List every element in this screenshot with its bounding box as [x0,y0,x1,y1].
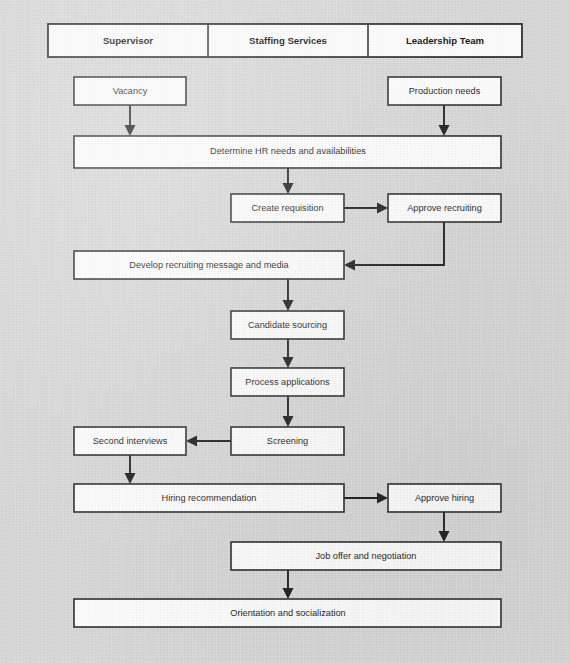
node-determine-hr-needs[interactable]: Determine HR needs and availabilities [74,136,501,168]
edge-approve-recruiting-to-develop-recruiting [344,222,444,271]
process-flowchart: Supervisor Staffing Services Leadership … [0,0,570,663]
swimlane-header: Supervisor Staffing Services Leadership … [48,24,522,57]
node-job-offer-and-negotiation[interactable]: Job offer and negotiation [231,542,501,570]
node-approve-hiring[interactable]: Approve hiring [388,484,501,512]
node-label-develop-recruiting-message: Develop recruiting message and media [129,260,289,270]
node-label-approve-recruiting: Approve recruiting [407,203,482,213]
node-production-needs[interactable]: Production needs [388,77,501,105]
edge-second-interviews-to-hiring-recommendation [125,455,136,484]
node-approve-recruiting[interactable]: Approve recruiting [388,194,501,222]
node-label-process-applications: Process applications [245,377,330,387]
swimlane-header-supervisor: Supervisor [103,35,153,46]
edge-determine-hr-to-create-requisition [283,168,294,194]
node-label-job-offer-and-negotiation: Job offer and negotiation [316,551,417,561]
node-develop-recruiting-message[interactable]: Develop recruiting message and media [74,251,344,279]
edge-hiring-recommendation-to-approve-hiring [344,493,388,504]
node-vacancy[interactable]: Vacancy [74,77,186,105]
edge-create-requisition-to-approve-recruiting [344,203,388,214]
node-label-orientation-and-socialization: Orientation and socialization [230,608,345,618]
edge-production-needs-to-determine-hr [439,105,450,136]
node-label-production-needs: Production needs [409,86,481,96]
node-label-create-requisition: Create requisition [251,203,323,213]
edge-vacancy-to-determine-hr [125,105,136,136]
node-candidate-sourcing[interactable]: Candidate sourcing [231,311,344,339]
edge-screening-to-second-interviews [186,436,231,447]
node-hiring-recommendation[interactable]: Hiring recommendation [74,484,344,512]
node-create-requisition[interactable]: Create requisition [231,194,344,222]
swimlane-header-leadership-team: Leadership Team [406,35,484,46]
node-label-vacancy: Vacancy [113,86,148,96]
node-process-applications[interactable]: Process applications [231,368,344,396]
node-orientation-and-socialization[interactable]: Orientation and socialization [74,599,501,627]
connector-layer [125,105,450,599]
node-second-interviews[interactable]: Second interviews [74,427,186,455]
node-label-hiring-recommendation: Hiring recommendation [162,493,257,503]
node-label-screening: Screening [267,436,308,446]
edge-candidate-sourcing-to-process-applications [283,339,294,368]
edge-process-applications-to-screening [283,396,294,427]
node-label-second-interviews: Second interviews [93,436,168,446]
node-label-determine-hr-needs: Determine HR needs and availabilities [210,146,366,156]
edge-develop-recruiting-to-candidate-sourcing [283,279,294,311]
edge-job-offer-to-orientation [283,570,294,599]
swimlane-header-staffing-services: Staffing Services [249,35,327,46]
node-screening[interactable]: Screening [231,427,344,455]
edge-approve-hiring-to-job-offer [439,512,450,542]
node-label-approve-hiring: Approve hiring [415,493,474,503]
node-label-candidate-sourcing: Candidate sourcing [248,320,327,330]
